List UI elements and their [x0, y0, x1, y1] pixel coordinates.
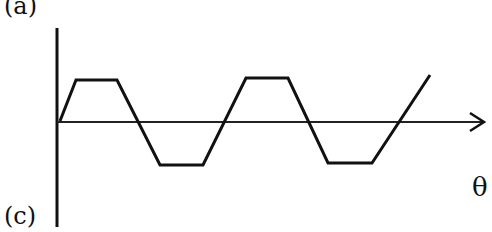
trapezoidal-waveform — [60, 75, 430, 165]
waveform-diagram — [0, 0, 492, 232]
